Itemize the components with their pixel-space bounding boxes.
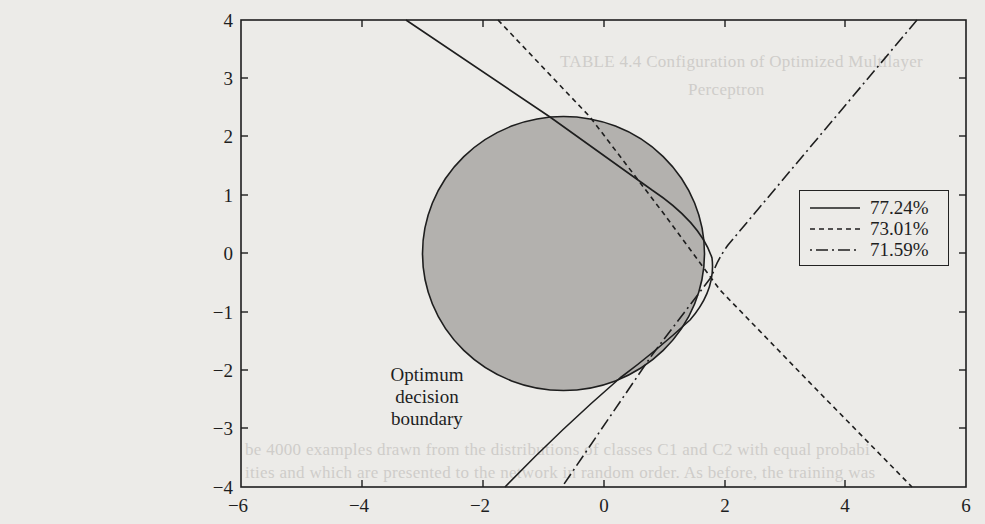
x-tick-label: −4 <box>339 496 379 515</box>
x-tick-label: 4 <box>825 496 865 515</box>
optimum-boundary-annotation: Optimum decision boundary <box>372 364 482 430</box>
legend-label: 77.24% <box>870 197 929 219</box>
legend-item: 77.24% <box>800 197 948 219</box>
x-tick-label: −6 <box>218 496 258 515</box>
y-tick-label: 4 <box>193 11 233 30</box>
legend-item: 73.01% <box>800 218 948 240</box>
y-tick-label: −3 <box>193 419 233 438</box>
dash-dot-line-swatch-icon <box>810 248 860 252</box>
y-tick-label: 2 <box>193 127 233 146</box>
annotation-line: Optimum <box>372 364 482 386</box>
dashed-line-swatch-icon <box>810 227 860 231</box>
y-tick-label: −4 <box>193 478 233 497</box>
x-tick-label: 0 <box>584 496 624 515</box>
y-tick-label: −2 <box>193 361 233 380</box>
y-tick-label: −1 <box>193 303 233 322</box>
solid-line-swatch-icon <box>810 206 860 210</box>
x-tick-label: 6 <box>946 496 985 515</box>
legend: 77.24% 73.01% 71.59% <box>799 190 949 266</box>
annotation-line: boundary <box>372 408 482 430</box>
legend-label: 71.59% <box>870 239 929 261</box>
y-tick-label: 3 <box>193 69 233 88</box>
legend-item: 71.59% <box>800 239 948 261</box>
figure-page: TABLE 4.4 Configuration of Optimized Mul… <box>0 0 985 524</box>
x-tick-label: 2 <box>705 496 745 515</box>
legend-label: 73.01% <box>870 218 929 240</box>
y-tick-label: 1 <box>193 186 233 205</box>
y-tick-label: 0 <box>193 244 233 263</box>
x-tick-label: −2 <box>460 496 500 515</box>
optimum-boundary-circle <box>423 117 705 391</box>
annotation-line: decision <box>372 386 482 408</box>
